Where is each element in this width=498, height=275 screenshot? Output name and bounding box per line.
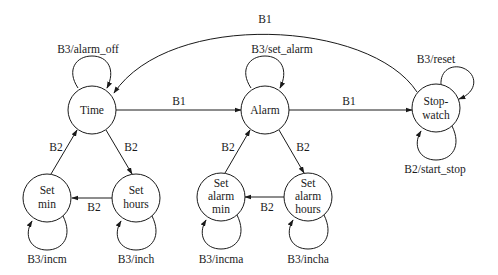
state-set-min: Set min — [23, 174, 71, 222]
edge-set-alarm-hours-to-set-alarm-min: B2 — [245, 197, 284, 213]
state-label-line1: Stop- — [424, 95, 449, 108]
edge-alarm-to-stopwatch: B1 — [289, 95, 412, 110]
edge-label: B2 — [49, 141, 63, 153]
state-stopwatch: Stop- watch — [412, 84, 460, 132]
edge-time-to-alarm: B1 — [116, 95, 241, 110]
self-loop-alarm-set-alarm: B3/set_alarm — [246, 43, 313, 88]
state-label-line2: hours — [123, 198, 149, 210]
state-label-line2: min — [38, 198, 56, 210]
edge-label: B2 — [296, 141, 310, 153]
state-label-line1: Set — [301, 177, 317, 189]
state-set-hours: Set hours — [112, 174, 160, 222]
self-loop-set-min-incm: B3/incm — [27, 216, 67, 265]
state-label-line3: hours — [295, 203, 321, 215]
state-alarm: Alarm — [241, 86, 289, 134]
loop-label: B2/start_stop — [404, 163, 466, 176]
state-label-line2: alarm — [208, 190, 234, 202]
edge-time-to-set-hours: B2 — [106, 130, 138, 174]
edge-set-alarm-min-to-alarm: B2 — [221, 130, 250, 173]
state-label-line3: min — [212, 203, 230, 215]
edge-label: B2 — [221, 141, 235, 153]
edge-label: B2 — [124, 141, 138, 153]
loop-label: B3/inch — [118, 253, 155, 265]
state-label: Alarm — [250, 104, 279, 116]
self-loop-set-alarm-min-incma: B3/incma — [199, 215, 244, 265]
self-loop-stopwatch-start-stop: B2/start_stop — [404, 126, 466, 176]
edge-alarm-to-set-alarm-hours: B2 — [279, 130, 310, 173]
state-set-alarm-min: Set alarm min — [197, 173, 245, 221]
self-loop-set-alarm-hours-incha: B3/incha — [287, 215, 329, 265]
state-label-line2: watch — [422, 109, 450, 121]
loop-label: B3/set_alarm — [251, 43, 312, 55]
loop-label: B3/incm — [27, 253, 67, 265]
loop-label: B3/incma — [199, 253, 244, 265]
state-label-line1: Set — [40, 184, 56, 196]
edge-set-hours-to-set-min: B2 — [72, 198, 112, 213]
loop-label: B3/alarm_off — [57, 43, 119, 55]
state-label-line1: Set — [129, 184, 145, 196]
edge-set-min-to-time: B2 — [49, 130, 77, 174]
loop-label: B3/reset — [417, 53, 456, 65]
edge-label: B1 — [258, 13, 272, 25]
state-time: Time — [68, 86, 116, 134]
state-label: Time — [80, 104, 104, 116]
self-loop-set-hours-inch: B3/inch — [117, 216, 156, 265]
edge-label: B2 — [87, 201, 101, 213]
state-label-line1: Set — [214, 177, 230, 189]
edge-label: B1 — [172, 95, 186, 107]
loop-label: B3/incha — [287, 253, 329, 265]
state-set-alarm-hours: Set alarm hours — [284, 173, 332, 221]
self-loop-time-alarm-off: B3/alarm_off — [57, 43, 119, 88]
edge-label: B1 — [342, 95, 356, 107]
state-diagram: B1 B1 B1 B2 B2 B2 B2 B2 B2 — [0, 0, 498, 275]
state-label-line2: alarm — [295, 190, 321, 202]
edge-label: B2 — [260, 201, 274, 213]
